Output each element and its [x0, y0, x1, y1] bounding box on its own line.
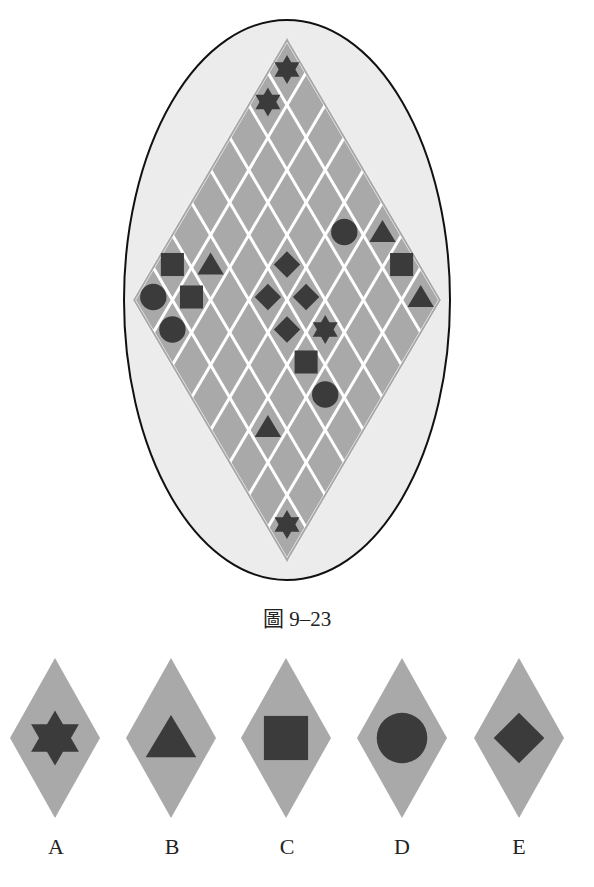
option-label-d[interactable]: D — [382, 834, 422, 860]
circle-icon — [140, 284, 166, 310]
figure-caption: 圖 9–23 — [0, 602, 594, 632]
circle-icon — [159, 316, 185, 342]
square-icon — [390, 253, 413, 276]
option-label-e[interactable]: E — [499, 834, 539, 860]
answer-options — [10, 658, 564, 818]
option-a[interactable] — [10, 658, 100, 818]
option-e[interactable] — [474, 658, 564, 818]
circle-icon — [312, 381, 338, 407]
circle-icon — [331, 219, 357, 245]
option-label-b[interactable]: B — [152, 834, 192, 860]
option-c[interactable] — [241, 658, 331, 818]
square-icon — [295, 350, 318, 373]
option-label-a[interactable]: A — [36, 834, 76, 860]
option-d[interactable] — [357, 658, 447, 818]
puzzle-figure — [0, 0, 594, 887]
square-icon — [161, 253, 184, 276]
option-label-c[interactable]: C — [267, 834, 307, 860]
option-b[interactable] — [126, 658, 216, 818]
square-icon — [180, 285, 203, 308]
circle-icon — [377, 713, 428, 764]
square-icon — [264, 716, 308, 760]
